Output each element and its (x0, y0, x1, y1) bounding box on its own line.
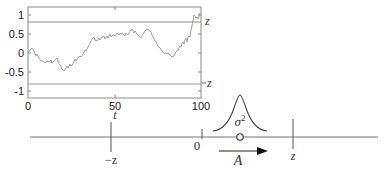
upper-barrier-label: z (204, 14, 210, 28)
y-tick-label: 0.5 (9, 28, 24, 40)
variance-label: σ2 (235, 113, 246, 129)
y-tick-label: -1 (14, 85, 24, 97)
diagram-canvas: 1 0.5 0 -0.5 -1 0 50 100 t z z −z 0 z σ2 (0, 0, 384, 170)
drift-arrow-head-icon (257, 147, 268, 155)
x-tick-label: 100 (192, 100, 210, 112)
neg-z-label: −z (105, 153, 117, 167)
drift-label: A (233, 153, 243, 168)
y-tick-label: -0.5 (5, 66, 24, 78)
z-label: z (290, 149, 296, 163)
lower-barrier-label: z (206, 76, 212, 90)
y-tick-label: 0 (18, 47, 24, 59)
x-tick-label: 0 (25, 100, 31, 112)
origin-label: 0 (194, 138, 201, 153)
current-position-marker (237, 134, 243, 140)
y-tick-label: 1 (18, 9, 24, 21)
time-series-plot: 1 0.5 0 -0.5 -1 0 50 100 t z z (5, 7, 212, 122)
